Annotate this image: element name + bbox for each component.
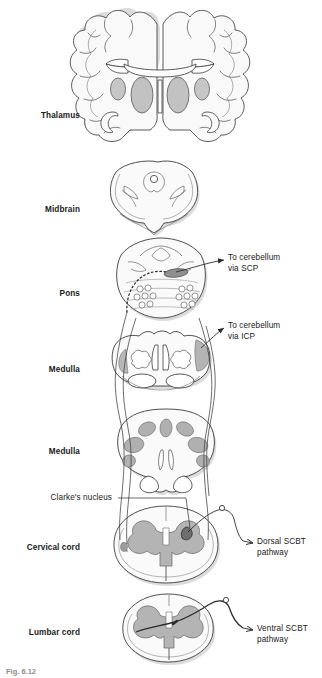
third-ventricle (158, 80, 162, 113)
central-canal-lumbar (166, 612, 172, 628)
label-dorsal-scbt-pathway: Dorsal SCBT pathway (257, 537, 306, 558)
section-pons (117, 238, 208, 321)
figure-caption: Fig. 6.12 (6, 667, 36, 676)
label-pons: Pons (0, 289, 80, 298)
label-to-cerebellum-icp: To cerebellum via ICP (228, 321, 280, 342)
label-medulla-lower: Medulla (0, 447, 80, 456)
label-cervical-cord: Cervical cord (0, 543, 80, 552)
section-medulla-lower (118, 409, 217, 495)
section-lumbar-cord (123, 594, 216, 665)
section-medulla-upper (112, 331, 212, 390)
leader-dorsal-scbt (243, 541, 253, 543)
section-cerebrum (70, 8, 250, 142)
leader-ventral-scbt (243, 628, 253, 630)
dorsal-scbt-marker-cervical (121, 543, 128, 552)
label-ventral-scbt-pathway: Ventral SCBT pathway (257, 624, 308, 645)
label-clarkes-nucleus: Clarke's nucleus (0, 493, 112, 502)
leader-to-cerebellum-icp (201, 328, 224, 348)
section-midbrain (110, 161, 199, 236)
label-to-cerebellum-scp: To cerebellum via SCP (228, 253, 280, 274)
label-thalamus: Thalamus (0, 111, 80, 120)
inferior-olive-left (131, 350, 151, 368)
label-lumbar-cord: Lumbar cord (0, 628, 80, 637)
label-medulla-upper: Medulla (0, 365, 80, 374)
label-midbrain: Midbrain (0, 205, 80, 214)
cerebral-aqueduct (150, 175, 157, 182)
inferior-olive-right (171, 350, 191, 368)
central-canal-cervical (163, 528, 169, 545)
